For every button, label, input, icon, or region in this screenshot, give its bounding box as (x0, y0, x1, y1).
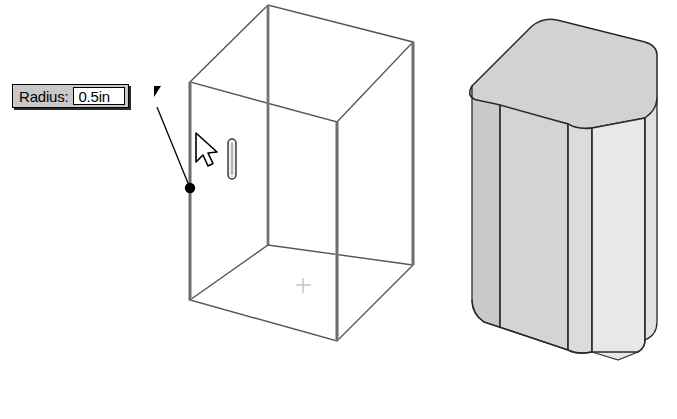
selected-edge-handle[interactable] (185, 183, 195, 193)
solid-right-face[interactable] (592, 118, 645, 360)
filleted-solid-group[interactable] (470, 19, 657, 360)
radius-input[interactable]: 0.5in (73, 87, 125, 105)
wireframe-box-group[interactable] (157, 5, 413, 341)
solid-front-corner-round-face[interactable] (568, 124, 592, 353)
wireframe-bottom-face[interactable] (190, 245, 413, 341)
wireframe-top-face[interactable] (190, 5, 413, 122)
callout-pointer-tail (154, 86, 161, 97)
callout-leader-line (157, 107, 190, 188)
radius-callout[interactable]: Radius: 0.5in (12, 84, 129, 108)
solid-right-round-face[interactable] (645, 98, 657, 340)
fillet-radius-handle[interactable] (228, 139, 236, 179)
solid-left-round-face[interactable] (470, 86, 500, 327)
cad-viewport-screenshot: Radius: 0.5in (0, 0, 677, 419)
radius-callout-label: Radius: (13, 85, 73, 107)
solid-front-left-face[interactable] (500, 105, 568, 350)
arrow-pointer-icon (196, 133, 217, 166)
model-canvas[interactable] (0, 0, 677, 419)
